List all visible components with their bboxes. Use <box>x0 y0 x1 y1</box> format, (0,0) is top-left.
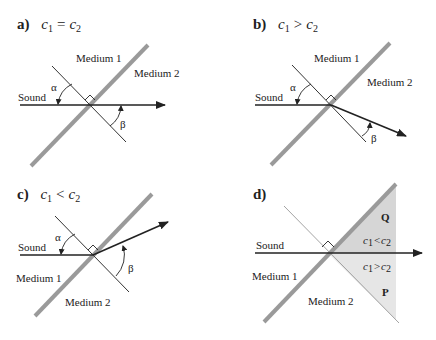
beta-arc <box>116 246 124 276</box>
refraction-diagram: a) c1=c2 Medium 1 Medium 2 Sound α β b) … <box>0 0 436 340</box>
panel-c: c) c1<c2 Sound Medium 1 Medium 2 α β <box>16 186 168 316</box>
medium1-label: Medium 1 <box>252 270 298 282</box>
alpha-label: α <box>51 81 57 93</box>
sound-label: Sound <box>256 239 285 251</box>
alpha-label: α <box>55 231 61 243</box>
medium1-label: Medium 1 <box>76 52 122 64</box>
panel-b-title: b) c1>c2 <box>253 16 318 34</box>
p-condition: c1>c2 <box>363 260 391 274</box>
alpha-arc <box>58 84 72 104</box>
beta-label: β <box>371 132 377 144</box>
region-p-label: P <box>382 286 389 298</box>
panel-a: a) c1=c2 Medium 1 Medium 2 Sound α β <box>17 16 180 166</box>
q-condition: c1<c2 <box>363 234 391 248</box>
alpha-arc <box>297 84 311 104</box>
panel-d-title: d) <box>253 186 266 203</box>
medium2-label: Medium 2 <box>308 295 354 307</box>
sound-label: Sound <box>18 91 47 103</box>
medium2-label: Medium 2 <box>65 296 111 308</box>
alpha-arc <box>61 234 75 254</box>
beta-label: β <box>128 262 134 274</box>
panel-b: b) c1>c2 Medium 1 Medium 2 Sound α β <box>253 16 413 165</box>
region-q-label: Q <box>381 211 390 223</box>
medium1-label: Medium 1 <box>16 272 62 284</box>
medium1-label: Medium 1 <box>314 52 360 64</box>
panel-d: d) Sound Medium 1 Medium 2 Q P c1<c2 c1>… <box>252 183 422 323</box>
medium2-label: Medium 2 <box>367 76 413 88</box>
beta-arc <box>362 123 370 136</box>
medium2-label: Medium 2 <box>134 67 180 79</box>
sound-label: Sound <box>255 91 284 103</box>
sound-label: Sound <box>18 241 47 253</box>
beta-label: β <box>120 118 126 130</box>
alpha-label: α <box>290 81 296 93</box>
refracted-ray <box>331 105 406 136</box>
refracted-ray <box>93 222 168 255</box>
panel-c-title: c) c1<c2 <box>17 186 80 204</box>
panel-a-title: a) c1=c2 <box>17 16 81 34</box>
